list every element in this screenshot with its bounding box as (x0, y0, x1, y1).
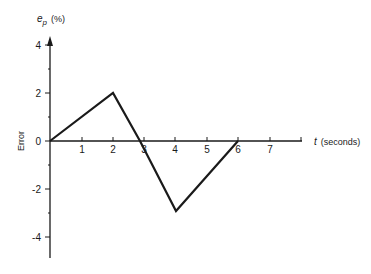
y-tick-label: -2 (32, 184, 41, 195)
y-axis-title: Error (16, 131, 26, 151)
y-tick-label: 2 (35, 88, 41, 99)
x-tick-label: 4 (172, 144, 178, 155)
y-tick-label: 4 (35, 40, 41, 51)
x-tick-label: 7 (267, 144, 273, 155)
y-ticks (45, 45, 50, 237)
y-tick-label: -4 (32, 232, 41, 243)
error-chart: 4 2 0 -2 -4 1 2 3 4 5 6 7 t(seconds) ep(… (0, 0, 371, 274)
x-tick-label: 1 (79, 144, 85, 155)
y-tick-label: 0 (35, 136, 41, 147)
x-tick-label: 2 (110, 144, 116, 155)
x-tick-label: 6 (235, 144, 241, 155)
x-tick-label: 5 (204, 144, 210, 155)
y-axis-symbol: ep(%) (37, 13, 65, 27)
x-axis-title: t(seconds) (314, 136, 360, 147)
